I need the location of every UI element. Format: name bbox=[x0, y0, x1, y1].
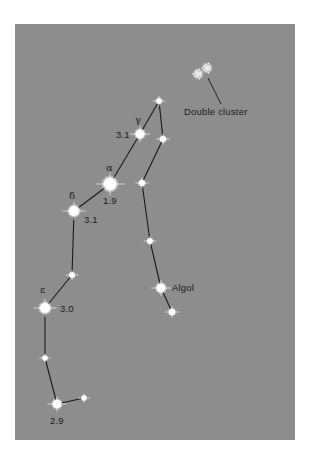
stars-layer bbox=[33, 96, 179, 412]
delta-magnitude: 3.1 bbox=[84, 214, 98, 225]
double-cluster-icon bbox=[192, 62, 221, 104]
gamma-label: γ bbox=[135, 114, 141, 125]
star-icon bbox=[153, 96, 165, 106]
delta-label: δ bbox=[69, 190, 75, 201]
constellation-line bbox=[159, 101, 163, 139]
star-icon bbox=[47, 396, 66, 411]
star-icon bbox=[151, 280, 171, 296]
star-icon bbox=[66, 270, 78, 280]
double-cluster-pointer bbox=[208, 78, 221, 104]
star-icon bbox=[144, 236, 156, 246]
double-cluster-label: Double cluster bbox=[184, 106, 248, 117]
constellation-lines bbox=[45, 101, 172, 404]
gamma-magnitude: 3.1 bbox=[116, 129, 130, 140]
star-icon bbox=[156, 134, 169, 145]
alpha-magnitude: 1.9 bbox=[103, 195, 117, 206]
alpha-label: α bbox=[106, 162, 113, 173]
bottom-star-magnitude: 2.9 bbox=[50, 415, 64, 426]
constellation-line bbox=[142, 183, 150, 241]
star-cluster-icon bbox=[201, 62, 213, 74]
star-icon bbox=[135, 178, 148, 189]
epsilon-label: ε bbox=[40, 284, 45, 295]
star-icon bbox=[165, 306, 179, 318]
star-icon bbox=[130, 126, 150, 142]
star-icon bbox=[39, 353, 51, 362]
star-icon bbox=[78, 393, 90, 402]
constellation-line bbox=[72, 211, 74, 275]
star-icon bbox=[33, 299, 56, 317]
constellation-line bbox=[142, 139, 163, 183]
constellation-line bbox=[150, 241, 161, 288]
constellation-diagram bbox=[0, 0, 311, 457]
constellation-line bbox=[45, 358, 57, 404]
epsilon-magnitude: 3.0 bbox=[60, 303, 74, 314]
algol-label: Algol bbox=[172, 282, 194, 293]
